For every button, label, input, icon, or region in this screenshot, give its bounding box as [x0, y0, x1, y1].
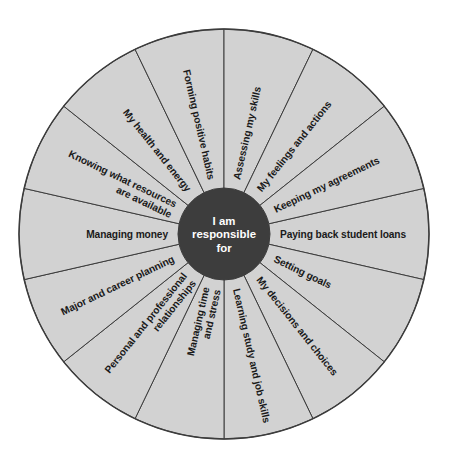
sector-label-line: Managing money	[86, 229, 168, 240]
hub-line-2: responsible	[192, 228, 256, 240]
responsibility-wheel-figure: Paying back student loansSetting goalsMy…	[0, 0, 455, 465]
hub-line-3: for	[216, 242, 232, 254]
wheel-diagram: Paying back student loansSetting goalsMy…	[0, 0, 455, 465]
sector-label-managing-money: Managing money	[86, 229, 168, 240]
sector-label-line: Paying back student loans	[280, 229, 406, 240]
sector-label-paying-back-student-loans: Paying back student loans	[280, 229, 406, 240]
hub-line-1: I am	[213, 215, 236, 227]
